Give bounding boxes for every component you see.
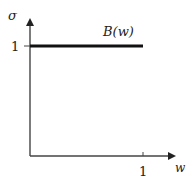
y-axis-label: σ	[8, 8, 18, 23]
chart-canvas: σ 1 B(w) 1 w	[0, 0, 192, 189]
x-tick-label-1: 1	[139, 164, 147, 179]
series-label: B(w)	[102, 24, 134, 39]
x-axis-label: w	[175, 161, 186, 175]
y-tick-label-1: 1	[11, 39, 19, 54]
